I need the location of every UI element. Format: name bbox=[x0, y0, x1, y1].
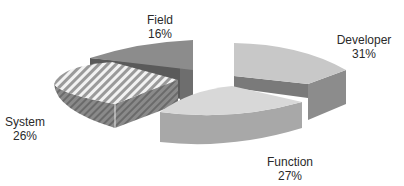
label-system-name: System bbox=[0, 115, 50, 129]
label-function-value: 27% bbox=[260, 169, 320, 183]
label-field-value: 16% bbox=[130, 27, 190, 41]
label-function: Function 27% bbox=[260, 155, 320, 183]
label-function-name: Function bbox=[260, 155, 320, 169]
label-developer-name: Developer bbox=[334, 33, 394, 47]
label-field-name: Field bbox=[130, 13, 190, 27]
label-system: System 26% bbox=[0, 115, 50, 143]
pie-chart bbox=[0, 0, 404, 186]
label-developer: Developer 31% bbox=[334, 33, 394, 61]
label-system-value: 26% bbox=[0, 129, 50, 143]
label-developer-value: 31% bbox=[334, 47, 394, 61]
label-field: Field 16% bbox=[130, 13, 190, 41]
